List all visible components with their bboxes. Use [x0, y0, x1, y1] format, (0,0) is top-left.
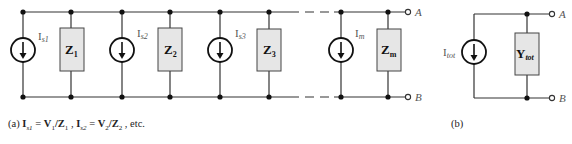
caption-b: (b): [451, 118, 463, 129]
equivalent-current-source: Itot: [443, 40, 486, 64]
caption-a: (a) Is1 = V1/Z1 , Is2 = V2/Z2 , etc.: [8, 118, 145, 132]
eq1-equals: =: [33, 118, 44, 129]
source-label-1: Is1: [38, 30, 49, 44]
current-source-m: Im: [329, 9, 365, 99]
equivalent-admittance: Ytot: [515, 11, 539, 100]
eq2-equals: =: [87, 118, 98, 129]
eq-separator: ,: [68, 118, 76, 129]
terminal-a: [549, 11, 554, 16]
panel-b-circuit: Itot Ytot A B: [443, 8, 566, 104]
caption-a-tag: (a): [8, 118, 20, 129]
impedance-m: Zm: [377, 9, 401, 99]
terminal-a-label: A: [558, 8, 566, 20]
impedance-1: Z1: [60, 9, 84, 99]
source-label-tot: Itot: [443, 46, 456, 60]
terminal-b: [549, 95, 554, 100]
panel-a-circuit: Is1 Z1 Is2 Z2: [11, 6, 422, 103]
current-source-1: Is1: [11, 9, 49, 99]
terminal-b-label: B: [415, 91, 422, 103]
source-label-3: Is3: [235, 27, 246, 41]
terminal-b-label: B: [559, 92, 566, 104]
terminal-a: [405, 9, 410, 14]
impedance-2: Z2: [158, 9, 182, 99]
eq-tail: , etc.: [122, 118, 145, 129]
current-source-2: Is2: [110, 9, 148, 99]
impedance-3: Z3: [257, 9, 281, 99]
source-label-2: Is2: [137, 27, 148, 41]
terminal-a-label: A: [414, 6, 422, 18]
current-source-3: Is3: [208, 9, 246, 99]
terminal-b: [405, 94, 410, 99]
eq1-z: /Z: [55, 118, 65, 129]
eq2-z: /Z: [109, 118, 119, 129]
source-label-m: Im: [355, 27, 365, 41]
